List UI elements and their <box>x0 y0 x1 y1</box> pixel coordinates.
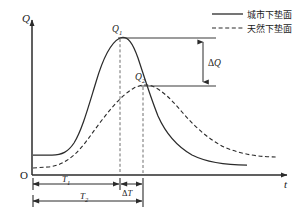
urban-surface-curve <box>33 37 247 165</box>
y-axis-label: Q <box>22 12 30 24</box>
hydrograph-plot: Q t O ΔQ Q1 Q2 T1 <box>0 0 303 217</box>
delta-t-label: ΔT <box>122 188 133 198</box>
legend: 城市下垫面 天然下垫面 <box>212 9 292 34</box>
legend-label-natural: 天然下垫面 <box>247 23 292 34</box>
x-axis-label: t <box>284 178 288 190</box>
natural-surface-curve <box>33 85 277 168</box>
peak-urban-label: Q1 <box>112 24 122 36</box>
legend-label-urban: 城市下垫面 <box>247 9 292 20</box>
delta-q-label: ΔQ <box>208 58 221 68</box>
t2-label: T2 <box>80 191 89 203</box>
hydrograph-figure: Q t O ΔQ Q1 Q2 T1 <box>0 0 303 217</box>
peak-natural-label: Q2 <box>135 72 146 84</box>
origin-label: O <box>20 169 28 181</box>
